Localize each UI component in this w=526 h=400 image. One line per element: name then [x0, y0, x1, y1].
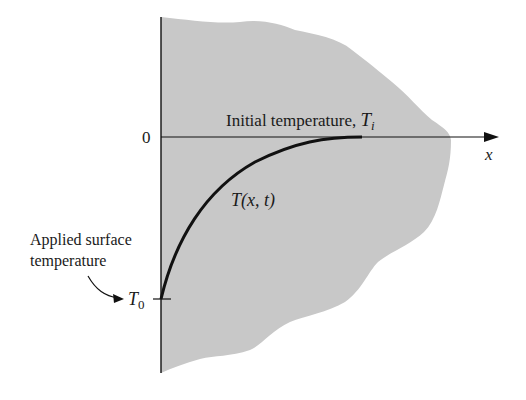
- curve-label: T(x, t): [231, 190, 275, 211]
- surface-temperature-subscript: 0: [138, 297, 145, 312]
- x-axis-arrow-icon: [484, 132, 499, 142]
- pointer-arrowhead-icon: [113, 294, 124, 303]
- curve-label-args: (x, t): [241, 190, 275, 211]
- initial-temperature-label: Initial temperature, Ti: [226, 109, 375, 133]
- initial-temperature-subscript: i: [371, 118, 375, 133]
- origin-label: 0: [142, 128, 151, 147]
- applied-surface-label-line2: temperature: [30, 252, 106, 270]
- x-axis-label: x: [484, 145, 493, 164]
- semi-infinite-medium: [161, 17, 451, 373]
- initial-temperature-text: Initial temperature,: [226, 111, 361, 130]
- applied-surface-label-line1: Applied surface: [30, 231, 132, 249]
- heat-conduction-diagram: 0 x Initial temperature, Ti T(x, t) Appl…: [0, 0, 526, 400]
- surface-temperature-label: T0: [128, 289, 145, 312]
